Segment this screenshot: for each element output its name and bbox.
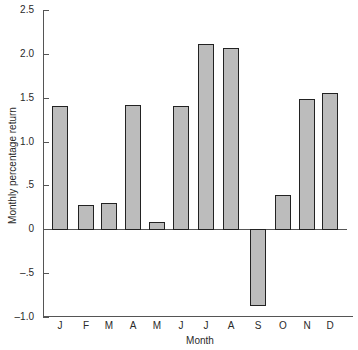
x-tick-label: M [147, 320, 167, 331]
x-tick-label: J [171, 320, 191, 331]
bar [223, 48, 239, 230]
bar [198, 44, 214, 231]
y-tick-label: –1.0 [0, 311, 34, 322]
bar [52, 106, 68, 230]
bar [275, 195, 291, 230]
x-tick-label: S [248, 320, 268, 331]
y-tick-mark [43, 273, 49, 274]
y-tick-label: –.5 [0, 267, 34, 278]
bar [322, 93, 338, 230]
bar [78, 205, 94, 230]
y-tick-mark [43, 54, 49, 55]
bar [173, 106, 189, 230]
x-tick-label: F [76, 320, 96, 331]
x-tick-label: A [123, 320, 143, 331]
x-tick-label: D [320, 320, 340, 331]
bar [250, 229, 266, 306]
y-axis-line [43, 10, 44, 317]
y-tick-mark [43, 98, 49, 99]
y-tick-mark [43, 317, 49, 318]
y-tick-mark [43, 10, 49, 11]
y-tick-mark [43, 229, 49, 230]
bar [101, 203, 117, 230]
x-tick-label: J [196, 320, 216, 331]
x-tick-label: N [297, 320, 317, 331]
bar [299, 99, 315, 230]
x-axis-line [43, 316, 353, 317]
y-tick-label: 2.0 [0, 48, 34, 59]
y-tick-mark [43, 185, 49, 186]
x-tick-label: J [50, 320, 70, 331]
y-axis-title: Monthly percentage return [7, 96, 18, 236]
bar [125, 105, 141, 230]
x-tick-label: A [221, 320, 241, 331]
x-axis-title: Month [170, 335, 230, 346]
y-tick-label: 2.5 [0, 4, 34, 15]
x-tick-label: M [99, 320, 119, 331]
x-tick-label: O [273, 320, 293, 331]
bar-chart: 2.52.01.51.0.50–.5–1.0 JFMAMJJASOND Mont… [0, 0, 358, 350]
bar [149, 222, 165, 230]
y-tick-mark [43, 142, 49, 143]
